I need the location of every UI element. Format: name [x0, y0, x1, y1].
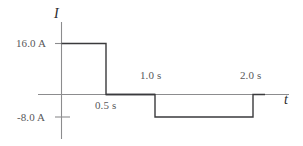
current-vs-time-figure: I t 16.0 A -8.0 A 0.5 s 1.0 s 2.0 s: [0, 0, 303, 146]
current-waveform: [62, 44, 266, 118]
x-tick-label-2-0s: 2.0 s: [240, 69, 261, 81]
x-axis-label: t: [284, 92, 288, 108]
y-axis-label: I: [54, 6, 59, 22]
x-tick-label-1-0s: 1.0 s: [140, 69, 161, 81]
x-tick-label-0-5s: 0.5 s: [95, 99, 116, 111]
y-tick-label-16a: 16.0 A: [16, 37, 46, 49]
y-tick-label-neg8a: -8.0 A: [17, 111, 45, 123]
